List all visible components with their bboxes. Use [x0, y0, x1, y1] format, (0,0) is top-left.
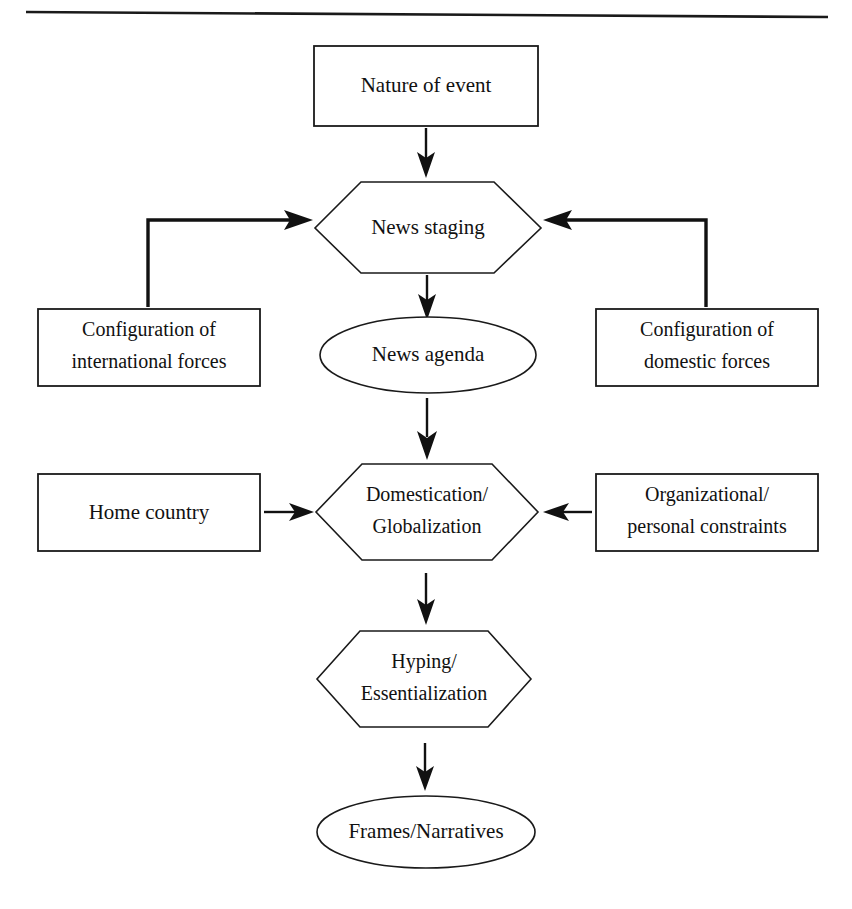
organizational-label-line2: personal constraints — [627, 515, 787, 538]
news-staging-label: News staging — [371, 215, 485, 239]
node-hyping-essentialization: Hyping/ Essentialization — [317, 631, 531, 727]
hyping-label-line1: Hyping/ — [391, 650, 457, 673]
domestication-hexagon — [316, 464, 538, 560]
edge-organizational-to-domestication — [543, 503, 592, 521]
hyping-label-line2: Essentialization — [361, 682, 488, 704]
edge-intl-to-staging-path — [148, 220, 290, 307]
news-agenda-label: News agenda — [372, 342, 485, 366]
frames-narratives-label: Frames/Narratives — [348, 819, 503, 843]
config-domestic-label-line1: Configuration of — [640, 318, 774, 341]
top-rule-divider — [26, 12, 828, 17]
domestication-label-line2: Globalization — [373, 515, 482, 537]
home-country-label: Home country — [89, 500, 210, 524]
edge-domestication-to-hyping — [417, 573, 435, 625]
config-international-label-line1: Configuration of — [82, 318, 216, 341]
config-international-label-line2: international forces — [72, 350, 227, 372]
node-organizational-constraints: Organizational/ personal constraints — [596, 474, 818, 551]
organizational-label-line1: Organizational/ — [645, 483, 769, 506]
node-news-agenda: News agenda — [320, 317, 536, 393]
node-frames-narratives: Frames/Narratives — [317, 796, 535, 868]
node-config-international-forces: Configuration of international forces — [38, 309, 260, 386]
node-domestication-globalization: Domestication/ Globalization — [316, 464, 538, 560]
nature-of-event-label: Nature of event — [361, 73, 492, 97]
hyping-hexagon — [317, 631, 531, 727]
edge-domestic-to-staging-path — [566, 220, 706, 307]
node-config-domestic-forces: Configuration of domestic forces — [596, 309, 818, 386]
node-home-country: Home country — [38, 474, 260, 551]
edge-home-to-domestication — [264, 503, 314, 521]
edge-agenda-to-domestication — [417, 398, 437, 460]
flowchart-diagram: Nature of event News staging Configurati… — [0, 0, 852, 909]
edge-hyping-to-frames — [416, 743, 434, 791]
config-domestic-label-line2: domestic forces — [644, 350, 770, 372]
node-news-staging: News staging — [315, 182, 541, 273]
edge-nature-to-staging — [417, 128, 435, 178]
edge-domestic-to-staging — [543, 210, 706, 307]
edge-staging-to-agenda — [418, 275, 436, 320]
domestication-label-line1: Domestication/ — [366, 483, 489, 505]
node-nature-of-event: Nature of event — [314, 46, 538, 126]
edge-intl-to-staging — [148, 210, 313, 307]
